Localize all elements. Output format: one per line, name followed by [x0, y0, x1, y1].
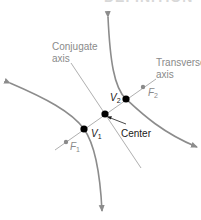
conjugate-axis-label-2: axis	[52, 53, 70, 64]
conjugate-axis-label-1: Conjugate	[52, 41, 98, 52]
title-fragment: DEFINITION	[104, 0, 193, 5]
transverse-axis-label-2: axis	[156, 69, 174, 80]
focus-f1-label: F1	[70, 141, 80, 153]
transverse-axis-label-1: Transverse	[156, 57, 201, 68]
focus-f2-point	[141, 85, 145, 89]
focus-f1-point	[64, 140, 68, 144]
center-point	[101, 110, 108, 117]
vertex-v1-label: V1	[91, 128, 102, 140]
hyperbola-branch-left	[10, 83, 102, 211]
center-label: Center	[121, 128, 152, 139]
vertex-v1-point	[80, 125, 87, 132]
vertex-v2-point	[122, 95, 129, 102]
vertex-v2-label: V2	[110, 92, 121, 104]
hyperbola-diagram: DEFINITION Conjugate axis Transverse axi…	[0, 0, 201, 220]
focus-f2-label: F2	[148, 87, 158, 99]
